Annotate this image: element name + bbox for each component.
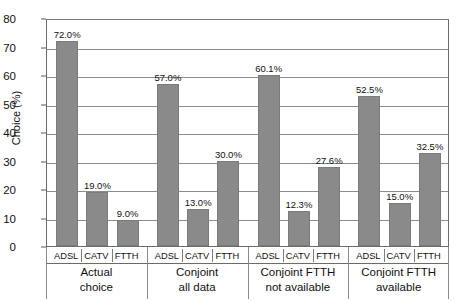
category-label-adsl: ADSL (152, 247, 182, 264)
category-separator (384, 249, 385, 262)
group-divider (248, 247, 249, 299)
y-axis-tick-mark (41, 19, 46, 20)
bar: 72.0% (56, 41, 78, 246)
bar: 57.0% (157, 84, 179, 246)
y-axis-tick-mark (41, 161, 46, 162)
y-axis-tick-label: 30 (0, 156, 16, 168)
bar: 13.0% (187, 209, 209, 246)
group-label-line1: Conjoint (147, 265, 248, 280)
bar: 60.1% (258, 75, 280, 246)
group-label: Conjoint FTTHnot available (248, 265, 349, 295)
category-label-adsl: ADSL (51, 247, 81, 264)
y-axis-tick-label: 50 (0, 99, 16, 111)
category-separator (414, 249, 415, 262)
group-axis: ActualchoiceConjointall dataConjoint FTT… (46, 265, 449, 303)
bar-value-label: 30.0% (215, 149, 242, 160)
group-label-line2: available (348, 280, 449, 295)
bar: 12.3% (288, 211, 310, 246)
group-label-line2: choice (46, 280, 147, 295)
category-label-ftth: FTTH (112, 247, 142, 264)
category-label-adsl: ADSL (253, 247, 283, 264)
bar-value-label: 9.0% (117, 208, 139, 219)
y-axis-tick-mark (41, 190, 46, 191)
y-axis-tick-label: 70 (0, 42, 16, 54)
group-label: Actualchoice (46, 265, 147, 295)
category-separator (81, 249, 82, 262)
bar: 32.5% (419, 153, 441, 246)
group-label: Conjoint FTTHavailable (348, 265, 449, 295)
group-label-line1: Actual (46, 265, 147, 280)
category-label-ftth: FTTH (313, 247, 343, 264)
category-label-catv: CATV (81, 247, 111, 264)
bar-value-label: 19.0% (84, 180, 111, 191)
bar-value-label: 57.0% (154, 72, 181, 83)
bars-layer: 72.0%19.0%9.0%57.0%13.0%30.0%60.1%12.3%2… (47, 20, 448, 246)
y-axis-tick-label: 40 (0, 127, 16, 139)
category-label-ftth: FTTH (414, 247, 444, 264)
y-axis-tick-mark (41, 218, 46, 219)
category-label-adsl: ADSL (353, 247, 383, 264)
category-separator (313, 249, 314, 262)
category-separator (112, 249, 113, 262)
category-separator (212, 249, 213, 262)
bar-value-label: 32.5% (416, 141, 443, 152)
bar: 15.0% (389, 203, 411, 246)
bar: 9.0% (117, 220, 139, 246)
category-label-catv: CATV (384, 247, 414, 264)
bar-value-label: 13.0% (185, 197, 212, 208)
y-axis-tick-mark (41, 133, 46, 134)
bar-value-label: 60.1% (255, 63, 282, 74)
bar-value-label: 15.0% (386, 191, 413, 202)
y-axis-tick-mark (41, 104, 46, 105)
bar: 19.0% (86, 192, 108, 246)
group-axis-edge (46, 247, 47, 299)
group-label-line1: Conjoint FTTH (248, 265, 349, 280)
bar-value-label: 72.0% (54, 29, 81, 40)
group-axis-edge (448, 247, 449, 299)
group-divider (348, 247, 349, 299)
category-label-catv: CATV (283, 247, 313, 264)
y-axis-tick-label: 10 (0, 213, 16, 225)
y-axis-tick-mark (41, 76, 46, 77)
y-axis-tick-label: 0 (0, 241, 16, 253)
y-axis-tick-label: 20 (0, 184, 16, 196)
group-label: Conjointall data (147, 265, 248, 295)
bar-chart: Choice (%) 72.0%19.0%9.0%57.0%13.0%30.0%… (0, 0, 471, 303)
bar-value-label: 12.3% (285, 199, 312, 210)
group-label-line1: Conjoint FTTH (348, 265, 449, 280)
group-label-line2: not available (248, 280, 349, 295)
category-label-ftth: FTTH (212, 247, 242, 264)
group-divider (147, 247, 148, 299)
category-label-catv: CATV (182, 247, 212, 264)
bar: 27.6% (318, 167, 340, 246)
bar: 52.5% (358, 96, 380, 246)
bar-value-label: 52.5% (356, 84, 383, 95)
plot-area: 72.0%19.0%9.0%57.0%13.0%30.0%60.1%12.3%2… (46, 19, 449, 247)
bar: 30.0% (217, 161, 239, 247)
bar-value-label: 27.6% (316, 155, 343, 166)
y-axis-tick-label: 60 (0, 70, 16, 82)
y-axis-tick-mark (41, 47, 46, 48)
group-label-line2: all data (147, 280, 248, 295)
category-separator (182, 249, 183, 262)
y-axis-tick-label: 80 (0, 13, 16, 25)
category-separator (283, 249, 284, 262)
